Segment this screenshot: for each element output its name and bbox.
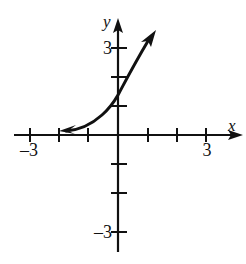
x-axis-label: x bbox=[228, 117, 236, 134]
x-tick-label-neg3: –3 bbox=[12, 141, 46, 159]
y-tick-label-pos3: 3 bbox=[92, 39, 112, 57]
coordinate-plane bbox=[0, 0, 246, 264]
curve-arrowhead-upper-right bbox=[141, 30, 156, 47]
y-tick-label-neg3: –3 bbox=[82, 223, 112, 241]
graph-figure: y x –3 3 3 –3 bbox=[0, 0, 246, 264]
x-tick-label-pos3: 3 bbox=[192, 141, 222, 159]
y-axis-label: y bbox=[103, 13, 111, 30]
